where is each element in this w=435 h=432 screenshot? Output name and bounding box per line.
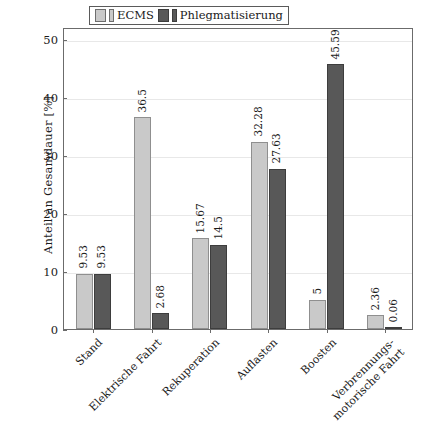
x-axis-tick-label: Rekuperation xyxy=(159,336,222,399)
y-axis-tick-mark xyxy=(63,330,67,331)
legend-label-ecms: ECMS xyxy=(117,10,154,22)
bar-value-label: 32.28 xyxy=(253,106,264,136)
bar-ecms-3: 32.28 xyxy=(251,142,268,329)
y-axis-title: Anteil an Gesamdauer [%] xyxy=(41,25,55,325)
x-axis-tick-mark xyxy=(152,329,153,333)
legend-swatch-icon-ecms-a xyxy=(95,9,106,22)
bar-phlegmatisierung-1: 2.68 xyxy=(152,313,169,329)
bar-value-label: 5 xyxy=(312,288,323,295)
gridline xyxy=(64,215,412,216)
bar-ecms-5: 2.36 xyxy=(367,315,384,329)
y-axis-tick-mark xyxy=(63,272,67,273)
bar-phlegmatisierung-5: 0.06 xyxy=(385,327,402,329)
y-axis-tick-label: 30 xyxy=(18,149,58,163)
bar-ecms-2: 15.67 xyxy=(192,238,209,329)
bar-phlegmatisierung-4: 45.59 xyxy=(327,64,344,329)
bar-value-label: 9.53 xyxy=(96,245,107,268)
x-axis-tick-mark xyxy=(93,329,94,333)
chart-legend: ECMS Phlegmatisierung xyxy=(89,6,289,25)
y-axis-tick-label: 40 xyxy=(18,91,58,105)
x-axis-tick-mark xyxy=(210,329,211,333)
y-axis-tick-label: 10 xyxy=(18,265,58,279)
y-axis-tick-mark xyxy=(63,40,67,41)
y-axis-tick-label: 50 xyxy=(18,33,58,47)
bar-group: 36.52.68 xyxy=(134,29,169,329)
bar-group: 32.2827.63 xyxy=(251,29,286,329)
bar-group: 545.59 xyxy=(309,29,344,329)
bar-value-label: 14.5 xyxy=(213,216,224,239)
x-axis-tick-label: Boosten xyxy=(298,336,340,378)
bar-ecms-0: 9.53 xyxy=(76,274,93,329)
y-axis-tick-label: 20 xyxy=(18,207,58,221)
bar-value-label: 45.59 xyxy=(330,29,341,59)
legend-label-phlegmatisierung: Phlegmatisierung xyxy=(180,10,283,22)
y-axis-tick-mark xyxy=(63,98,67,99)
legend-entry-ecms: ECMS xyxy=(95,9,154,22)
legend-swatch-icon-ecms-b xyxy=(109,9,114,22)
gridline xyxy=(64,273,412,274)
bar-phlegmatisierung-2: 14.5 xyxy=(210,245,227,329)
gridline xyxy=(64,99,412,100)
gridline xyxy=(64,41,412,42)
bar-value-label: 0.06 xyxy=(388,299,399,322)
bar-group: 9.539.53 xyxy=(76,29,111,329)
bar-value-label: 2.68 xyxy=(155,285,166,308)
bar-value-label: 15.67 xyxy=(195,203,206,233)
x-axis-tick-label: Auflasten xyxy=(234,336,281,383)
bar-value-label: 36.5 xyxy=(137,89,148,112)
x-axis-tick-mark xyxy=(385,329,386,333)
bar-phlegmatisierung-0: 9.53 xyxy=(94,274,111,329)
bar-value-label: 27.63 xyxy=(271,133,282,163)
x-axis-tick-mark xyxy=(327,329,328,333)
bar-group: 15.6714.5 xyxy=(192,29,227,329)
bar-ecms-4: 5 xyxy=(309,300,326,329)
gridline xyxy=(64,157,412,158)
bar-chart-figure: Anteil an Gesamdauer [%] 9.539.5336.52.6… xyxy=(0,0,435,432)
bar-value-label: 9.53 xyxy=(78,245,89,268)
x-axis-tick-label: Stand xyxy=(73,336,106,369)
bar-phlegmatisierung-3: 27.63 xyxy=(269,169,286,329)
y-axis-tick-label: 0 xyxy=(18,323,58,337)
plot-inner: 9.539.5336.52.6815.6714.532.2827.63545.5… xyxy=(64,29,412,329)
bar-group: 2.360.06 xyxy=(367,29,402,329)
plot-area: 9.539.5336.52.6815.6714.532.2827.63545.5… xyxy=(63,28,413,330)
legend-entry-phlegmatisierung: Phlegmatisierung xyxy=(158,9,283,22)
bar-ecms-1: 36.5 xyxy=(134,117,151,329)
y-axis-tick-mark xyxy=(63,156,67,157)
bar-value-label: 2.36 xyxy=(370,287,381,310)
x-axis-tick-mark xyxy=(268,329,269,333)
y-axis-tick-mark xyxy=(63,214,67,215)
legend-swatch-icon-phlegmatisierung-b xyxy=(172,9,177,22)
legend-swatch-icon-phlegmatisierung-a xyxy=(158,9,169,22)
